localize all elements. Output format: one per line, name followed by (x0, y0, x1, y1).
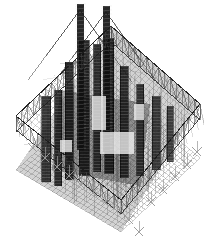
column-7 (135, 84, 145, 176)
column-8 (151, 96, 162, 170)
space-frame-rendering (0, 0, 210, 242)
figure-canvas (0, 0, 210, 242)
highlight-gap-0 (92, 96, 106, 130)
column-6 (119, 66, 130, 178)
column-9 (166, 106, 175, 162)
highlight-gap-1 (100, 132, 134, 154)
column-shaft (120, 66, 128, 178)
column-0 (40, 96, 52, 182)
highlight-gap-2 (134, 104, 144, 120)
column-shaft (152, 96, 160, 170)
highlight-gap-3 (60, 140, 72, 152)
column-1 (53, 90, 63, 186)
